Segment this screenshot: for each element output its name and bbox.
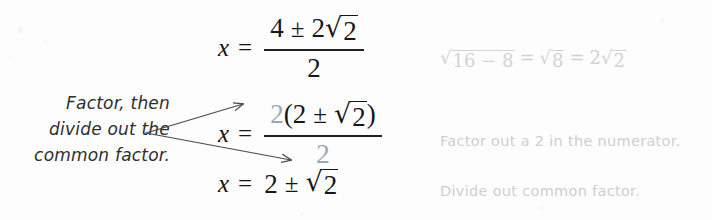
radical-sign-icon: √ bbox=[601, 49, 612, 67]
margin1-radicand-2: 8 bbox=[551, 50, 564, 71]
step2-num-first: 2 bbox=[293, 99, 307, 129]
scan-speckle bbox=[9, 56, 13, 59]
callout-line-2: divide out the bbox=[0, 116, 170, 142]
step1-fraction: 4±2√2 2 bbox=[264, 14, 363, 83]
step1-num-first: 4 bbox=[270, 13, 284, 43]
margin1-radicand-1: 16 − 8 bbox=[451, 50, 514, 71]
callout-label: Factor, then divide out the common facto… bbox=[0, 90, 170, 168]
margin1-equals-2: = bbox=[564, 47, 589, 68]
step3-radical: √2 bbox=[305, 168, 338, 200]
step1-variable: x bbox=[218, 34, 238, 62]
step2-open-paren: ( bbox=[284, 99, 293, 129]
step2-radicand: 2 bbox=[351, 101, 367, 132]
scan-speckle bbox=[18, 26, 23, 33]
radical-sign-icon: √ bbox=[440, 49, 451, 67]
step1-radicand: 2 bbox=[342, 15, 358, 46]
plus-minus-icon: ± bbox=[284, 15, 312, 42]
margin-note-step-3: Divide out common factor. bbox=[440, 183, 640, 199]
callout-line-3: common factor. bbox=[0, 142, 170, 168]
step3-variable: x bbox=[218, 170, 238, 198]
step2-close-paren: ) bbox=[367, 99, 376, 129]
scan-speckle bbox=[300, 212, 304, 216]
radical-sign-icon: √ bbox=[334, 100, 351, 127]
step1-num-coefficient: 2 bbox=[311, 13, 325, 43]
denominator-2: 2 bbox=[310, 140, 336, 169]
step1-equals: = bbox=[238, 34, 264, 62]
step2-variable: x bbox=[218, 120, 238, 148]
equation-step-2: x = 2(2±√2) 2 bbox=[218, 100, 382, 169]
scan-speckle bbox=[44, 40, 47, 44]
step1-fraction-bar bbox=[264, 49, 363, 51]
margin1-coefficient: 2 bbox=[590, 47, 601, 68]
margin-note-step-1: √16 − 8=√8=2√2 bbox=[440, 47, 626, 71]
step3-radicand: 2 bbox=[323, 169, 339, 200]
step2-equals: = bbox=[238, 120, 264, 148]
radical-sign-icon: √ bbox=[305, 168, 322, 195]
margin-note-step-2: Factor out a 2 in the numerator. bbox=[440, 133, 681, 149]
margin1-radicand-3: 2 bbox=[612, 50, 625, 71]
callout-line-1: Factor, then bbox=[0, 90, 170, 116]
scan-speckle bbox=[660, 18, 664, 23]
step2-fraction: 2(2±√2) 2 bbox=[264, 100, 381, 169]
plus-minus-icon: ± bbox=[306, 101, 334, 128]
margin1-radical-3: √2 bbox=[601, 49, 626, 71]
step2-radical: √2 bbox=[334, 100, 367, 132]
step3-first: 2 bbox=[264, 169, 278, 200]
radical-sign-icon: √ bbox=[539, 49, 550, 67]
step2-fraction-bar bbox=[264, 135, 381, 137]
equation-step-1: x = 4±2√2 2 bbox=[218, 14, 364, 83]
margin1-radical-2: √8 bbox=[539, 49, 564, 71]
step1-denominator: 2 bbox=[301, 54, 327, 83]
radical-sign-icon: √ bbox=[325, 14, 342, 41]
margin1-equals-1: = bbox=[514, 47, 539, 68]
step3-equals: = bbox=[238, 170, 264, 198]
step2-numerator: 2(2±√2) bbox=[264, 100, 381, 132]
equation-step-3: x = 2 ± √2 bbox=[218, 168, 338, 200]
plus-minus-icon: ± bbox=[278, 170, 306, 198]
worksheet-canvas: x = 4±2√2 2 √16 − 8=√8=2√2 Factor, then … bbox=[0, 0, 712, 220]
numerator-factor-2: 2 bbox=[270, 99, 284, 129]
step1-numerator: 4±2√2 bbox=[264, 14, 363, 46]
step1-radical: √2 bbox=[325, 14, 358, 46]
margin1-radical-1: √16 − 8 bbox=[440, 49, 514, 71]
scan-speckle bbox=[540, 206, 545, 210]
